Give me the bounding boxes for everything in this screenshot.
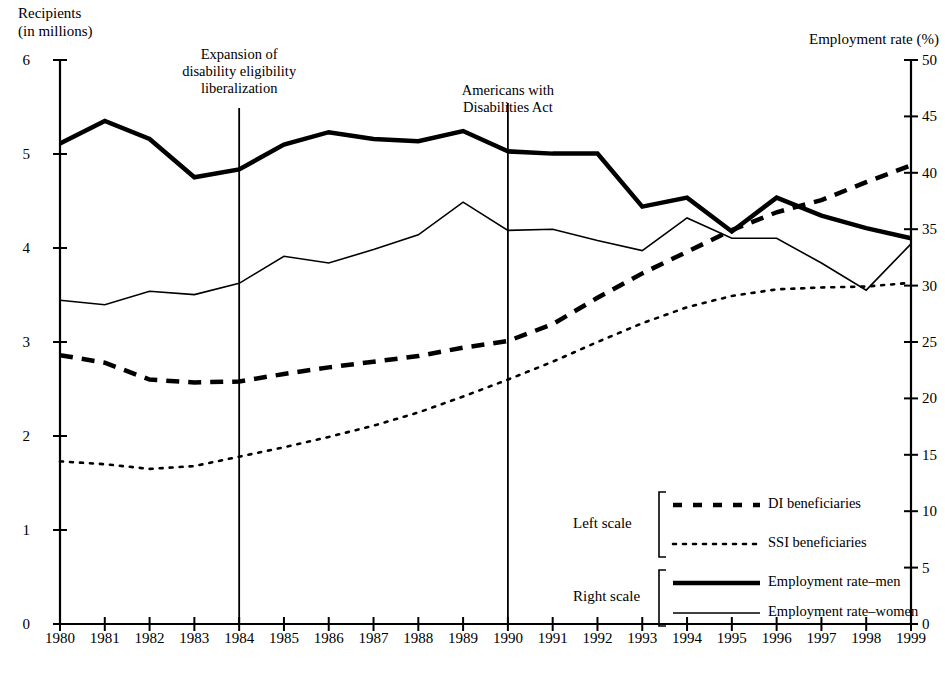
x-tick-label: 1990 [493,630,523,647]
legend-scale-label: Left scale [573,515,632,532]
series-line-2 [60,121,911,238]
right-y-tick-label: 30 [922,277,937,294]
x-tick-label: 1998 [851,630,881,647]
left-y-tick-label: 5 [23,146,31,163]
event-annotation: Americans with Disabilities Act [398,82,618,116]
legend-swatch-group [659,492,760,626]
left-y-tick-label: 1 [23,522,31,539]
legend-bracket [659,492,666,557]
x-tick-label: 1995 [717,630,747,647]
x-tick-label: 1985 [269,630,299,647]
x-tick-label: 1980 [45,630,75,647]
series-line-1 [60,283,911,469]
legend-entry-label: SSI beneficiaries [768,534,867,551]
legend-entry-label: DI beneficiaries [768,495,861,512]
x-tick-label: 1983 [179,630,209,647]
data-series-group [60,121,911,469]
x-tick-label: 1982 [135,630,165,647]
x-tick-label: 1986 [314,630,344,647]
x-tick-label: 1997 [806,630,836,647]
chart-figure: Recipients (in millions) Employment rate… [0,0,945,681]
series-line-0 [60,165,911,382]
x-tick-label: 1988 [403,630,433,647]
right-y-tick-label: 45 [922,108,937,125]
left-y-tick-label: 2 [23,428,31,445]
right-y-tick-label: 35 [922,221,937,238]
right-y-tick-label: 15 [922,446,937,463]
x-tick-label: 1996 [762,630,792,647]
right-y-tick-label: 10 [922,503,937,520]
x-tick-label: 1987 [359,630,389,647]
left-y-tick-label: 6 [23,52,31,69]
right-y-tick-label: 5 [922,559,930,576]
right-y-tick-label: 40 [922,164,937,181]
event-annotation: Expansion of disability eligibility libe… [129,46,349,97]
x-tick-label: 1994 [672,630,702,647]
x-tick-label: 1999 [896,630,926,647]
left-y-tick-label: 4 [23,240,31,257]
left-y-tick-label: 0 [23,616,31,633]
x-tick-label: 1981 [90,630,120,647]
x-tick-label: 1992 [582,630,612,647]
right-y-tick-label: 50 [922,52,937,69]
right-y-tick-label: 0 [922,616,930,633]
right-y-tick-label: 25 [922,334,937,351]
left-y-tick-label: 3 [23,334,31,351]
legend-bracket [659,570,666,626]
x-tick-label: 1989 [448,630,478,647]
x-tick-label: 1991 [538,630,568,647]
legend-entry-label: Employment rate–women [768,603,918,620]
x-tick-label: 1993 [627,630,657,647]
legend-scale-label: Right scale [573,588,640,605]
x-tick-label: 1984 [224,630,254,647]
legend-entry-label: Employment rate–men [768,573,900,590]
right-y-tick-label: 20 [922,390,937,407]
